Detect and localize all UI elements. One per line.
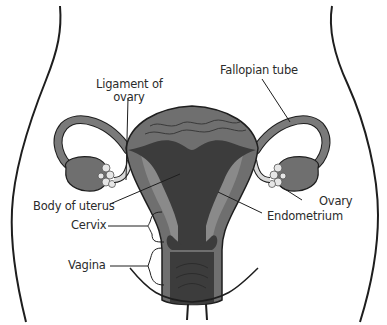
vaginal-canal: [170, 252, 214, 305]
label-ovary: Ovary: [319, 195, 352, 208]
label-ligament-line2: ovary: [96, 91, 162, 104]
label-body-of-uterus: Body of uterus: [33, 200, 115, 213]
body-outline-right: [331, 6, 378, 322]
label-vagina: Vagina: [68, 259, 106, 272]
label-cervix: Cervix: [71, 219, 106, 232]
label-ligament-of-ovary: Ligament of ovary: [96, 78, 162, 104]
label-endometrium: Endometrium: [267, 210, 343, 223]
anatomy-diagram: Ligament of ovary Fallopian tube Body of…: [0, 0, 387, 325]
reproductive-system-illustration: [0, 0, 387, 325]
label-fallopian-tube: Fallopian tube: [220, 64, 298, 77]
body-outline-left: [12, 6, 61, 322]
leader-fallopian: [262, 79, 290, 122]
